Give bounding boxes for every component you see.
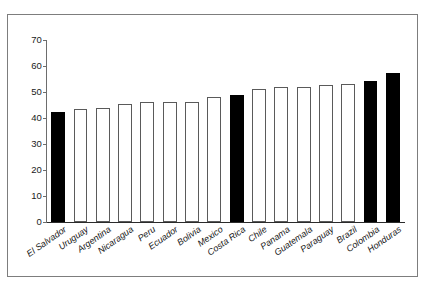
bar-nicaragua — [118, 104, 132, 222]
bar-uruguay — [74, 109, 88, 222]
bar-costa-rica — [230, 95, 244, 222]
y-tick-label: 50 — [18, 87, 42, 97]
bar-chile — [252, 89, 266, 222]
bar-brazil — [341, 84, 355, 222]
y-tick-label: 40 — [18, 113, 42, 123]
bar-chart-figure: 010203040506070 El SalvadorUruguayArgent… — [0, 0, 427, 291]
bar-panama — [274, 87, 288, 222]
bar-colombia — [364, 81, 378, 222]
bar-ecuador — [163, 102, 177, 222]
plot-area — [47, 40, 404, 222]
bar-guatemala — [297, 87, 311, 222]
bar-bolivia — [185, 102, 199, 222]
y-tick-mark — [43, 222, 47, 223]
y-tick-label: 20 — [18, 165, 42, 175]
bar-argentina — [96, 108, 110, 222]
y-tick-label: 30 — [18, 139, 42, 149]
bar-honduras — [386, 73, 400, 223]
bar-paraguay — [319, 85, 333, 222]
bar-el-salvador — [51, 112, 65, 222]
y-tick-label: 60 — [18, 61, 42, 71]
x-axis-line — [46, 222, 405, 223]
bar-peru — [140, 102, 154, 222]
y-tick-label: 0 — [18, 217, 42, 227]
y-tick-label: 10 — [18, 191, 42, 201]
bar-mexico — [207, 97, 221, 222]
y-tick-label: 70 — [18, 35, 42, 45]
